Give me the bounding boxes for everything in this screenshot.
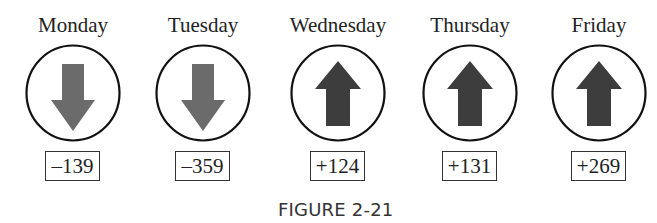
down-arrow-icon: [155, 44, 251, 142]
day-friday: Friday +269: [534, 0, 657, 190]
day-monday: Monday –139: [8, 0, 138, 190]
day-tuesday: Tuesday –359: [138, 0, 268, 190]
dial-circle: [422, 44, 518, 142]
up-arrow-icon: [422, 44, 518, 142]
dial-circle: [290, 44, 386, 142]
dial-circle: [155, 44, 251, 142]
dial-circle: [25, 44, 121, 142]
value-box: –359: [175, 151, 230, 181]
value-box: +269: [571, 151, 626, 181]
dial-circle: [551, 44, 647, 142]
day-label: Wednesday: [273, 13, 403, 37]
up-arrow-icon: [290, 44, 386, 142]
day-thursday: Thursday +131: [405, 0, 535, 190]
day-label: Thursday: [405, 13, 535, 37]
up-arrow-icon: [551, 44, 647, 142]
day-label: Tuesday: [138, 13, 268, 37]
day-label: Friday: [534, 13, 657, 37]
figure-caption: FIGURE 2-21: [278, 199, 393, 221]
value-box: +131: [442, 151, 497, 181]
value-box: +124: [310, 151, 365, 181]
value-box: –139: [45, 151, 100, 181]
down-arrow-icon: [25, 44, 121, 142]
day-wednesday: Wednesday +124: [273, 0, 403, 190]
day-label: Monday: [8, 13, 138, 37]
